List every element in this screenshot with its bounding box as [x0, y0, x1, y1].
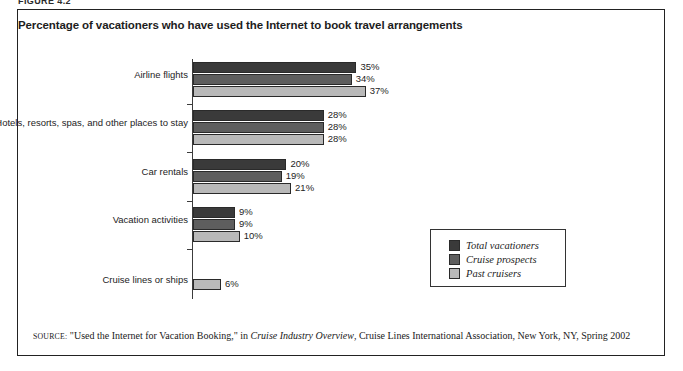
axis-tick	[187, 201, 192, 202]
bar-value-label: 28%	[328, 121, 347, 132]
bar-row: 28%	[193, 110, 384, 121]
category-label: Cruise lines or ships	[102, 274, 188, 285]
category-label: Car rentals	[142, 166, 188, 177]
bar	[193, 62, 356, 73]
bar-value-label: 21%	[295, 182, 314, 193]
axis-tick	[187, 249, 192, 250]
bar	[193, 219, 235, 230]
bar	[193, 171, 282, 182]
bar-value-label: 6%	[225, 278, 239, 289]
bar	[193, 159, 286, 170]
bar	[193, 134, 324, 145]
bar-row: 21%	[193, 183, 351, 194]
bar-row: 9%	[193, 219, 295, 230]
bar-row: 28%	[193, 134, 384, 145]
category-label: Hotels, resorts, spas, and other places …	[0, 117, 188, 128]
bar	[193, 279, 221, 290]
bar-row: 34%	[193, 74, 412, 85]
bar-value-label: 35%	[360, 61, 379, 72]
chart-legend: Total vacationersCruise prospectsPast cr…	[430, 229, 566, 287]
legend-item: Cruise prospects	[449, 253, 537, 266]
legend-swatch	[449, 268, 460, 279]
bar-value-label: 19%	[286, 170, 305, 181]
category-label: Vacation activities	[113, 214, 188, 225]
bar	[193, 74, 352, 85]
bar-value-label: 28%	[328, 109, 347, 120]
axis-tick	[187, 104, 192, 105]
bar-row: 10%	[193, 231, 300, 242]
bar	[193, 231, 240, 242]
bar-row: 6%	[193, 279, 281, 290]
bar-value-label: 28%	[328, 133, 347, 144]
bar-row: 35%	[193, 62, 416, 73]
source-publication: Cruise Industry Overview	[251, 330, 354, 341]
source-publisher: , Cruise Lines International Association…	[354, 330, 630, 341]
bar	[193, 183, 291, 194]
bar-row: 20%	[193, 159, 346, 170]
bar-row: 28%	[193, 122, 384, 133]
figure-label: FIGURE 4.2	[18, 0, 71, 6]
bar	[193, 86, 366, 97]
legend-label: Total vacationers	[466, 240, 539, 251]
legend-swatch	[449, 240, 460, 251]
source-connector: in	[240, 330, 248, 341]
bar	[193, 207, 235, 218]
bar-value-label: 37%	[370, 85, 389, 96]
bar-row: 37%	[193, 86, 426, 97]
legend-item: Total vacationers	[449, 239, 539, 252]
category-label: Airline flights	[134, 69, 188, 80]
legend-label: Cruise prospects	[466, 254, 537, 265]
bar-value-label: 9%	[239, 218, 253, 229]
bar-value-label: 10%	[244, 230, 263, 241]
bar	[193, 122, 324, 133]
source-quoted-title: "Used the Internet for Vacation Booking,…	[70, 330, 238, 341]
legend-label: Past cruisers	[466, 268, 521, 279]
legend-swatch	[449, 254, 460, 265]
bar-value-label: 9%	[239, 206, 253, 217]
bar-row: 9%	[193, 207, 295, 218]
source-label: SOURCE:	[33, 332, 67, 341]
legend-item: Past cruisers	[449, 267, 521, 280]
chart-title: Percentage of vacationers who have used …	[18, 19, 462, 31]
source-note: SOURCE: "Used the Internet for Vacation …	[33, 330, 630, 341]
bar-value-label: 34%	[356, 73, 375, 84]
bar	[193, 110, 324, 121]
axis-tick	[187, 152, 192, 153]
bar-value-label: 20%	[290, 158, 309, 169]
bar-row: 19%	[193, 171, 342, 182]
